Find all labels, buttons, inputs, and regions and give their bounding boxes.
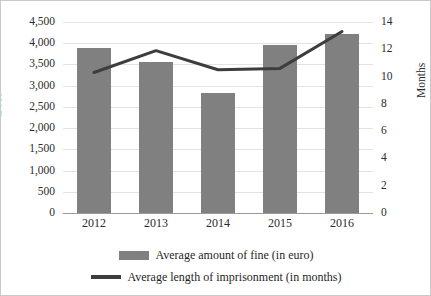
y-axis-right-tick-label: 12 <box>381 44 405 56</box>
legend-label-fine: Average amount of fine (in euro) <box>155 248 313 263</box>
y-axis-left-tick-label: 0 <box>1 207 55 219</box>
plot-area <box>63 22 373 213</box>
y-axis-right-tick-label: 4 <box>381 153 405 165</box>
y-axis-left-tick-label: 1,500 <box>1 144 55 156</box>
x-axis-tick-label: 2015 <box>249 217 311 229</box>
x-axis-tick-label: 2014 <box>187 217 249 229</box>
line-series <box>63 22 373 213</box>
y-axis-left-tick-label: 3,500 <box>1 59 55 71</box>
y-axis-left-tick-label: 4,000 <box>1 37 55 49</box>
legend-line-swatch-icon <box>91 275 121 279</box>
chart-legend: Average amount of fine (in euro) Average… <box>1 244 431 288</box>
y-axis-right-tick-label: 6 <box>381 125 405 137</box>
y-axis-right-tick-label: 10 <box>381 71 405 83</box>
y-axis-right-tick-label: 8 <box>381 98 405 110</box>
line-path <box>94 32 342 73</box>
y-axis-right-tick-label: 0 <box>381 207 405 219</box>
y-axis-left-tick-label: 2,500 <box>1 101 55 113</box>
y-axis-left-tick-label: 2,000 <box>1 122 55 134</box>
y-axis-left-tick-label: 500 <box>1 186 55 198</box>
x-axis-tick-label: 2013 <box>125 217 187 229</box>
y-axis-right-title: Months <box>415 63 427 98</box>
y-axis-right-tick-label: 2 <box>381 180 405 192</box>
legend-item-imprisonment: Average length of imprisonment (in month… <box>1 266 431 288</box>
y-axis-left-tick-label: 1,000 <box>1 165 55 177</box>
y-axis-right-tick-label: 14 <box>381 16 405 28</box>
legend-bar-swatch-icon <box>119 251 149 260</box>
y-axis-left-tick-label: 4,500 <box>1 16 55 28</box>
gridline <box>63 213 373 214</box>
legend-item-fine: Average amount of fine (in euro) <box>1 244 431 266</box>
chart-figure: EUR Months 05001,0001,5002,0002,5003,000… <box>0 0 431 296</box>
x-axis-tick-label: 2012 <box>63 217 125 229</box>
y-axis-left-tick-label: 3,000 <box>1 80 55 92</box>
x-axis-tick-label: 2016 <box>311 217 373 229</box>
legend-label-imprisonment: Average length of imprisonment (in month… <box>127 270 341 285</box>
